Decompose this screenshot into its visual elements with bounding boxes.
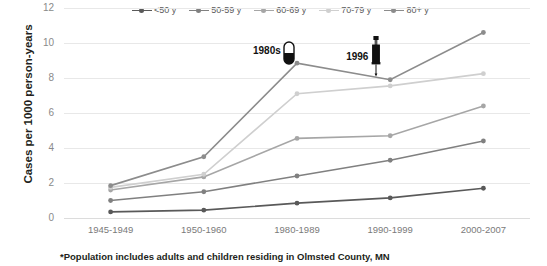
annotation-label: 1996 — [346, 51, 368, 62]
data-point — [388, 133, 393, 138]
data-point — [388, 77, 393, 82]
series-layer — [64, 8, 530, 218]
pill-icon — [283, 41, 295, 65]
data-point — [108, 183, 113, 188]
data-point — [201, 189, 206, 194]
data-point — [295, 136, 300, 141]
syringe-icon — [370, 35, 382, 77]
data-point — [295, 201, 300, 206]
data-point — [481, 139, 486, 144]
y-axis-tick-labels: 024681012 — [0, 0, 58, 266]
x-axis-tick-label: 1990-1999 — [345, 224, 435, 235]
annotation-label: 1980s — [253, 45, 281, 56]
plot-area — [64, 8, 530, 218]
y-axis-tick-label: 12 — [16, 2, 54, 13]
data-point — [201, 208, 206, 213]
y-axis-tick-label: 10 — [16, 37, 54, 48]
data-point — [295, 174, 300, 179]
y-axis-tick-label: 8 — [16, 72, 54, 83]
data-point — [481, 30, 486, 35]
x-axis-tick-label: 1950-1960 — [159, 224, 249, 235]
y-axis-tick-label: 2 — [16, 177, 54, 188]
chart-container: Cases per 1000 person-years 024681012 <5… — [0, 0, 547, 266]
annotation-1996: 1996 — [346, 35, 382, 77]
series-line — [111, 74, 484, 188]
series-line — [111, 141, 484, 201]
x-axis-tick-label: 1980-1989 — [252, 224, 342, 235]
data-point — [201, 154, 206, 159]
y-axis-tick-label: 4 — [16, 142, 54, 153]
chart-footnote: *Population includes adults and children… — [60, 251, 390, 262]
data-point — [388, 83, 393, 88]
gridline — [64, 218, 530, 219]
data-point — [388, 158, 393, 163]
data-point — [481, 104, 486, 109]
y-axis-tick-label: 6 — [16, 107, 54, 118]
data-point — [108, 209, 113, 214]
data-point — [201, 172, 206, 177]
data-point — [481, 186, 486, 191]
x-axis-tick-label: 1945-1949 — [66, 224, 156, 235]
data-point — [108, 198, 113, 203]
data-point — [295, 91, 300, 96]
annotation-1980s: 1980s — [253, 35, 295, 65]
data-point — [295, 61, 300, 66]
x-axis-tick-label: 2000-2007 — [438, 224, 528, 235]
series-line — [111, 33, 484, 186]
series-line — [111, 188, 484, 212]
data-point — [481, 71, 486, 76]
y-axis-tick-label: 0 — [16, 212, 54, 223]
data-point — [388, 195, 393, 200]
